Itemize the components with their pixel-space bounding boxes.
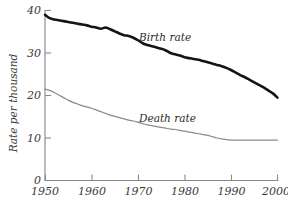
y-tick-label-20: 20: [26, 89, 41, 102]
x-tick-label-1990: 1990: [218, 185, 246, 198]
death-rate-annotation: Death rate: [138, 112, 196, 124]
chart-container: 0 10 20 30 40 1950 1960 1970 1980 1990 2…: [0, 0, 288, 207]
y-tick-label-10: 10: [27, 132, 41, 145]
chart-canvas: 0 10 20 30 40 1950 1960 1970 1980 1990 2…: [0, 0, 288, 207]
y-tick-label-40: 40: [26, 4, 41, 17]
x-tick-label-1970: 1970: [125, 185, 153, 198]
y-axis-ticks: [45, 11, 51, 181]
birth-rate-annotation: Birth rate: [138, 31, 191, 43]
x-tick-label-1980: 1980: [171, 185, 199, 198]
x-tick-label-2000: 2000: [261, 185, 288, 198]
x-axis-ticks: [46, 175, 278, 181]
x-tick-label-1950: 1950: [31, 185, 59, 198]
y-tick-label-30: 30: [27, 47, 41, 60]
y-axis-title: Rate per thousand: [7, 53, 19, 153]
x-tick-label-1960: 1960: [78, 185, 106, 198]
birth-rate-line: [45, 15, 278, 98]
